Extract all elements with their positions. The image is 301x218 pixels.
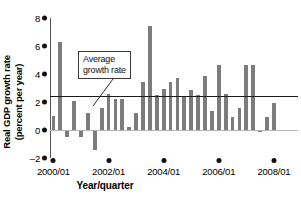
bar xyxy=(169,82,173,130)
bar xyxy=(141,82,145,130)
x-tick-label: 2008/01 xyxy=(246,166,301,177)
bar xyxy=(134,113,138,131)
y-tick-marker xyxy=(42,72,47,77)
bar xyxy=(86,113,90,131)
bar xyxy=(238,108,242,130)
bar xyxy=(244,65,248,130)
bar xyxy=(224,94,228,130)
bar xyxy=(182,96,186,130)
bar xyxy=(272,103,276,130)
y-tick-label: 6 xyxy=(18,41,40,52)
bar xyxy=(231,117,235,130)
bar xyxy=(58,42,62,130)
x-tick-label: 2002/01 xyxy=(81,166,137,177)
plot-area xyxy=(50,18,298,158)
bar xyxy=(107,94,111,130)
gdp-growth-rate-chart: Real GDP growth rate (percent per year) … xyxy=(0,0,301,218)
y-tick-marker xyxy=(42,156,47,161)
bar xyxy=(65,130,69,137)
bar xyxy=(114,99,118,130)
bar xyxy=(120,99,124,130)
bar xyxy=(251,65,255,130)
average-growth-rate-line xyxy=(50,96,298,98)
y-tick-label: 8 xyxy=(18,13,40,24)
y-axis-ticks: –202468 xyxy=(12,0,40,218)
y-tick-marker xyxy=(42,16,47,21)
y-tick-label: 4 xyxy=(18,69,40,80)
y-tick-label: 0 xyxy=(18,125,40,136)
y-tick-marker xyxy=(42,44,47,49)
x-tick-marker xyxy=(161,158,166,163)
x-tick-marker xyxy=(216,158,221,163)
plot-frame xyxy=(50,18,298,158)
bar xyxy=(79,130,83,137)
x-tick-marker xyxy=(51,158,56,163)
bar xyxy=(93,130,97,150)
bar xyxy=(210,111,214,130)
bar xyxy=(148,26,152,130)
y-tick-marker xyxy=(42,100,47,105)
x-tick-label: 2004/01 xyxy=(136,166,192,177)
bar xyxy=(52,116,56,130)
y-tick-marker xyxy=(42,128,47,133)
bar xyxy=(196,95,200,130)
bar xyxy=(155,95,159,130)
x-tick-label: 2006/01 xyxy=(191,166,247,177)
bar xyxy=(100,108,104,130)
average-growth-rate-annotation: Average growth rate xyxy=(78,51,131,79)
bar xyxy=(265,117,269,130)
bar xyxy=(203,76,207,130)
y-tick-label: 2 xyxy=(18,97,40,108)
zero-baseline xyxy=(50,130,298,131)
x-tick-marker xyxy=(106,158,111,163)
bar xyxy=(176,78,180,130)
y-tick-label: –2 xyxy=(18,153,40,164)
x-tick-marker xyxy=(271,158,276,163)
bar xyxy=(72,101,76,130)
bar xyxy=(217,65,221,130)
x-axis-title: Year/quarter xyxy=(45,180,165,191)
x-tick-label: 2000/01 xyxy=(25,166,81,177)
